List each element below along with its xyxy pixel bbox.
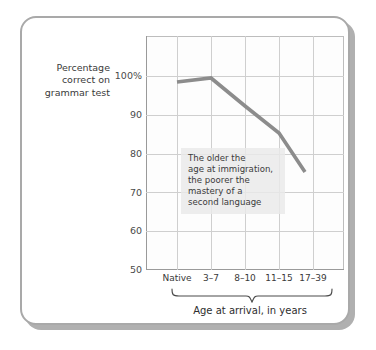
y-axis-label-line-3: grammar test <box>32 87 110 99</box>
annotation-line-3: the poorer the <box>188 175 279 186</box>
figure-container: Percentage correct on grammar test 100% … <box>0 0 376 350</box>
x-axis-label: Age at arrival, in years <box>146 305 354 316</box>
annotation-line-4: mastery of a <box>188 186 279 197</box>
y-tick-label-90: 90 <box>110 109 142 120</box>
age-group-bracket <box>170 288 334 304</box>
y-tick-label-70: 70 <box>110 187 142 198</box>
annotation-line-2: age at immigration, <box>188 164 279 175</box>
y-tick-label-50: 50 <box>110 264 142 275</box>
x-tick-label-11-15: 11–15 <box>265 273 292 283</box>
x-tick-label-8-10: 8–10 <box>234 273 256 283</box>
x-tick-label-3-7: 3–7 <box>203 273 219 283</box>
x-tick-label-native: Native <box>162 273 191 283</box>
y-tick-label-60: 60 <box>110 225 142 236</box>
annotation-line-5: second language <box>188 197 279 208</box>
chart-annotation: The older the age at immigration, the po… <box>181 148 285 214</box>
y-axis-label: Percentage correct on grammar test <box>32 62 110 99</box>
y-axis-label-line-1: Percentage <box>32 62 110 74</box>
y-tick-label-80: 80 <box>110 148 142 159</box>
x-tick-label-17-39: 17–39 <box>299 273 326 283</box>
y-axis-label-line-2: correct on <box>32 74 110 86</box>
y-tick-label-100: 100% <box>110 70 142 81</box>
annotation-line-1: The older the <box>188 153 279 164</box>
